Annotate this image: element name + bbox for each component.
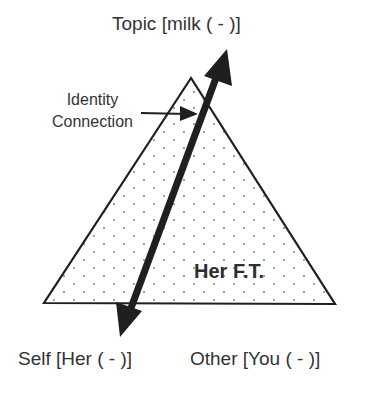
identity-label-line1: Identity (52, 89, 133, 111)
other-vertex-label: Other [You ( - )] (190, 348, 320, 370)
center-label: Her F.T. (194, 260, 264, 283)
triangle-diagram (0, 0, 368, 400)
self-vertex-label: Self [Her ( - )] (18, 348, 132, 370)
identity-connection-label: Identity Connection (52, 89, 133, 133)
arrowhead-down-icon (116, 302, 142, 337)
identity-label-line2: Connection (52, 111, 133, 133)
topic-vertex-label: Topic [milk ( - )] (112, 13, 241, 35)
arrowhead-up-icon (204, 49, 232, 86)
